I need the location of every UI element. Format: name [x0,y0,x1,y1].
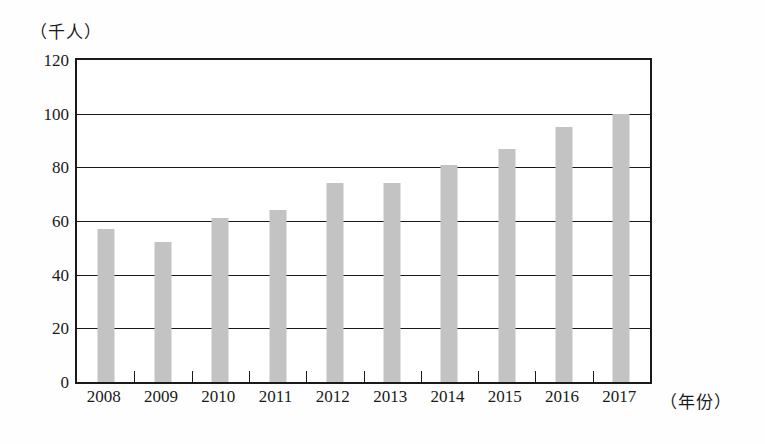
x-axis-tick-labels: 2008200920102011201220132014201520162017 [75,388,648,414]
bar [97,229,114,382]
y-axis-tick-label: 0 [61,374,70,391]
bar [269,210,286,382]
plot-area: 020406080100120 [75,58,652,384]
x-axis-unit-label: （年份） [660,388,732,413]
y-axis-unit-label: （千人） [30,18,102,43]
x-axis-tick-label: 2017 [602,388,636,407]
bar [154,242,171,382]
x-axis-tick-label: 2011 [259,388,292,407]
x-axis-tick-label: 2009 [144,388,178,407]
x-axis-tick-label: 2015 [488,388,522,407]
bar [326,183,343,382]
y-axis-tick-label: 40 [52,266,69,283]
y-axis-tick-label: 120 [44,52,70,69]
bars-group [77,60,650,382]
x-axis-tick-label: 2012 [316,388,350,407]
chart-page: （千人） 020406080100120 2008200920102011201… [0,0,765,444]
bar [441,165,458,382]
y-axis-tick-label: 100 [44,105,70,122]
bar [498,149,515,382]
x-axis-tick-label: 2010 [201,388,235,407]
x-axis-tick-label: 2014 [430,388,464,407]
bar [384,183,401,382]
x-axis-tick-label: 2016 [545,388,579,407]
y-axis-tick-label: 60 [52,213,69,230]
bar [556,127,573,382]
y-axis-tick-label: 80 [52,159,69,176]
bar [212,218,229,382]
x-axis-tick-label: 2008 [87,388,121,407]
bar [613,114,630,382]
x-axis-tick-label: 2013 [373,388,407,407]
y-axis-tick-label: 20 [52,320,69,337]
